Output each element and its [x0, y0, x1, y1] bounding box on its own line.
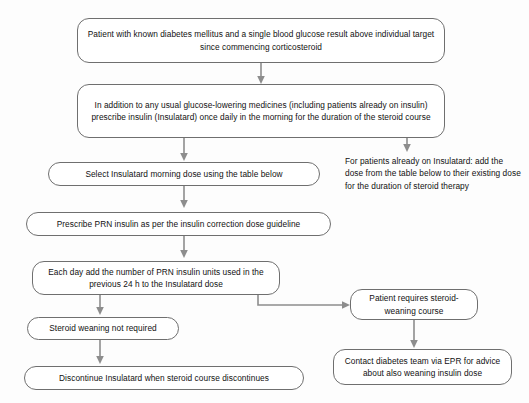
note-existing-insulatard: For patients already on Insulatard: add …	[345, 155, 523, 192]
node-no-weaning-label: Steroid weaning not required	[49, 322, 157, 335]
node-weaning-required[interactable]: Patient requires steroid-weaning course	[350, 289, 478, 320]
arrowhead-prn-to-titration	[180, 250, 188, 258]
node-weaning-required-label: Patient requires steroid-weaning course	[360, 292, 468, 317]
note-existing-insulatard-label: For patients already on Insulatard: add …	[345, 156, 521, 191]
node-select-dose-label: Select Insulatard morning dose using the…	[85, 168, 282, 181]
node-daily-titration[interactable]: Each day add the number of PRN insulin u…	[32, 261, 280, 295]
arrowhead-prescribe-to-select	[180, 153, 188, 161]
node-select-dose[interactable]: Select Insulatard morning dose using the…	[48, 162, 320, 186]
arrowhead-no-weaning-to-discontinue	[96, 356, 104, 364]
arrowhead-weaning-to-contact	[410, 340, 418, 348]
node-prescribe-insulatard[interactable]: In addition to any usual glucose-lowerin…	[77, 84, 445, 138]
arrowhead-trigger-to-prescribe	[257, 76, 265, 84]
node-prescribe-prn[interactable]: Prescribe PRN insulin as per the insulin…	[26, 212, 331, 236]
arrowhead-titration-to-weaning-required	[342, 301, 350, 309]
node-discontinue[interactable]: Discontinue Insulatard when steroid cour…	[24, 366, 304, 390]
arrowhead-prescribe-to-note	[403, 144, 411, 152]
node-daily-titration-label: Each day add the number of PRN insulin u…	[42, 266, 270, 291]
node-contact-team[interactable]: Contact diabetes team via EPR for advice…	[333, 349, 512, 385]
node-discontinue-label: Discontinue Insulatard when steroid cour…	[59, 372, 269, 385]
connector-titration-to-weaning-required	[258, 295, 342, 305]
flowchart-canvas: Patient with known diabetes mellitus and…	[0, 0, 529, 403]
node-trigger[interactable]: Patient with known diabetes mellitus and…	[77, 18, 445, 63]
node-trigger-label: Patient with known diabetes mellitus and…	[87, 28, 435, 53]
arrowhead-titration-to-no-weaning	[96, 307, 104, 315]
arrowhead-select-to-prn	[180, 200, 188, 208]
node-no-weaning[interactable]: Steroid weaning not required	[27, 317, 179, 340]
node-prescribe-insulatard-label: In addition to any usual glucose-lowerin…	[87, 99, 435, 124]
node-prescribe-prn-label: Prescribe PRN insulin as per the insulin…	[57, 218, 301, 231]
node-contact-team-label: Contact diabetes team via EPR for advice…	[343, 355, 502, 380]
